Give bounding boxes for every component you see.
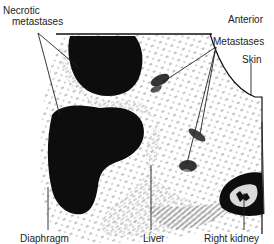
label-necrotic-metastases-1: Necrotic: [3, 5, 40, 16]
label-right-kidney: Right kidney: [204, 233, 259, 244]
label-diaphragm: Diaphragm: [20, 233, 69, 244]
label-metastases: Metastases: [213, 36, 264, 47]
label-necrotic-metastases-2: metastases: [12, 16, 63, 27]
label-skin: Skin: [242, 54, 261, 65]
label-liver: Liver: [143, 233, 165, 244]
label-anterior: Anterior: [228, 14, 263, 25]
ultrasound-diagram: Necrotic metastases Anterior Metastases …: [0, 0, 274, 244]
